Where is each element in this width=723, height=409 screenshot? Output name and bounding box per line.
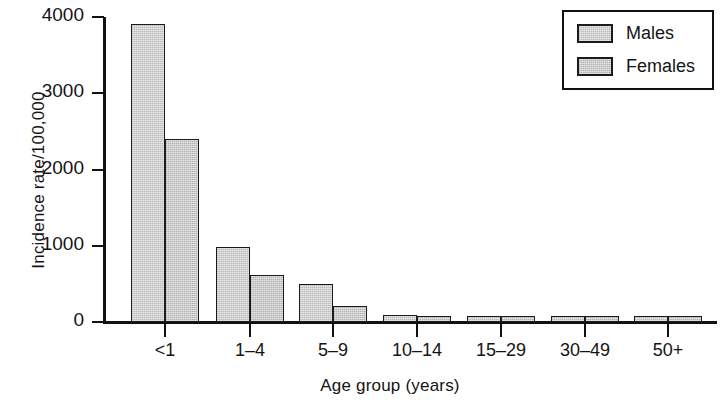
y-axis-tick-label: 0 bbox=[0, 309, 84, 331]
y-axis-tick bbox=[92, 321, 104, 323]
y-axis-tick-label: 4000 bbox=[0, 4, 84, 26]
x-axis-tick bbox=[332, 324, 334, 337]
legend-label-females: Females bbox=[626, 56, 695, 77]
y-axis-tick bbox=[92, 245, 104, 247]
bar-females-4 bbox=[501, 316, 535, 322]
bar-females-6 bbox=[668, 316, 702, 322]
x-axis-tick bbox=[584, 324, 586, 337]
y-axis-tick-label: 1000 bbox=[0, 233, 84, 255]
bar-females-0 bbox=[165, 139, 199, 322]
bar-males-1 bbox=[216, 247, 250, 322]
x-axis-tick-label: 1–4 bbox=[235, 340, 265, 361]
x-axis-tick-label: 5–9 bbox=[318, 340, 348, 361]
bar-females-3 bbox=[417, 316, 451, 322]
x-axis-tick-label: 15–29 bbox=[476, 340, 526, 361]
x-axis-tick-label: 30–49 bbox=[560, 340, 610, 361]
y-axis-tick-label: 2000 bbox=[0, 157, 84, 179]
chart-legend: Males Females bbox=[562, 10, 714, 90]
x-axis-tick bbox=[164, 324, 166, 337]
bar-males-0 bbox=[131, 24, 165, 322]
legend-swatch-males-icon bbox=[577, 24, 613, 43]
legend-label-males: Males bbox=[626, 23, 674, 44]
y-axis-tick-label: 3000 bbox=[0, 80, 84, 102]
bar-males-4 bbox=[467, 316, 501, 322]
x-axis-title: Age group (years) bbox=[100, 376, 680, 396]
y-axis-tick bbox=[92, 16, 104, 18]
legend-item-males: Males bbox=[577, 21, 674, 45]
bar-females-5 bbox=[585, 316, 619, 322]
bar-males-2 bbox=[299, 284, 333, 322]
bar-females-1 bbox=[250, 275, 284, 322]
x-axis-tick bbox=[416, 324, 418, 337]
bar-females-2 bbox=[333, 306, 367, 322]
x-axis-tick-label: <1 bbox=[155, 340, 176, 361]
bar-chart: Incidence rate/100,000 Age group (years)… bbox=[0, 0, 723, 409]
legend-swatch-females-icon bbox=[577, 57, 613, 76]
bar-males-5 bbox=[551, 316, 585, 322]
x-axis-tick bbox=[667, 324, 669, 337]
y-axis-tick bbox=[92, 92, 104, 94]
bar-males-3 bbox=[383, 315, 417, 322]
x-axis-tick-label: 50+ bbox=[653, 340, 684, 361]
legend-item-females: Females bbox=[577, 54, 695, 78]
y-axis-tick bbox=[92, 169, 104, 171]
x-axis-tick bbox=[500, 324, 502, 337]
x-axis-tick-label: 10–14 bbox=[392, 340, 442, 361]
bar-males-6 bbox=[634, 316, 668, 322]
x-axis-tick bbox=[249, 324, 251, 337]
